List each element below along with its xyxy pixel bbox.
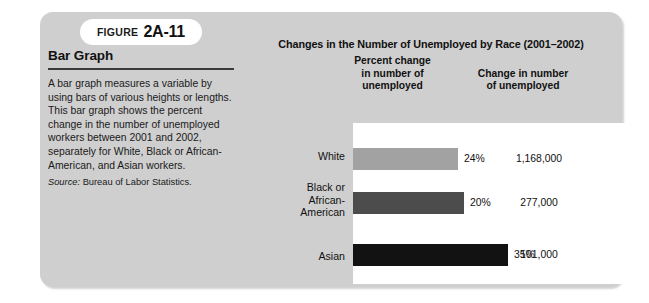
column-header-percent-line-2: in number of	[335, 68, 450, 81]
bar-white	[353, 148, 458, 170]
column-header-number-line-2: of unemployed	[453, 80, 593, 93]
category-label-black-line-2: African-	[253, 194, 345, 207]
category-label-black-line-3: American	[253, 206, 345, 219]
category-label-white: White	[253, 150, 345, 163]
bar-black-or-african-american	[353, 192, 464, 214]
count-label-black-or-african-american: 277,000	[485, 192, 593, 214]
column-header-percent-change: Percent change in number of unemployed	[335, 55, 450, 93]
count-label-white: 1,168,000	[485, 148, 593, 170]
figure-title: Bar Graph	[48, 48, 240, 63]
figure-badge: Figure 2A-11	[80, 19, 202, 45]
category-label-black-line-1: Black or	[253, 181, 345, 194]
category-label-asian: Asian	[253, 250, 345, 263]
category-label-black-or-african-american: Black or African- American	[253, 181, 345, 219]
figure-source: Source: Bureau of Labor Statistics.	[48, 176, 240, 188]
column-header-percent-line-1: Percent change	[335, 55, 450, 68]
column-header-percent-line-3: unemployed	[335, 80, 450, 93]
title-divider	[48, 68, 234, 70]
column-header-number-line-1: Change in number	[453, 68, 593, 81]
category-label-asian-line-1: Asian	[253, 250, 345, 263]
source-label: Source:	[48, 177, 80, 187]
figure-description: A bar graph measures a variable by using…	[48, 77, 236, 172]
description-column: Bar Graph A bar graph measures a variabl…	[48, 48, 240, 188]
chart-area: Changes in the Number of Unemployed by R…	[245, 38, 617, 284]
figure-root: Figure 2A-11 Bar Graph A bar graph measu…	[0, 0, 649, 303]
figure-panel: Figure 2A-11 Bar Graph A bar graph measu…	[40, 12, 622, 287]
source-text: Bureau of Labor Statistics.	[83, 177, 192, 187]
chart-title: Changes in the Number of Unemployed by R…	[245, 38, 617, 50]
chart-column-headers: Percent change in number of unemployed C…	[245, 55, 617, 101]
figure-badge-number: 2A-11	[143, 23, 185, 41]
figure-badge-word: Figure	[97, 26, 138, 38]
count-label-asian: 101,000	[485, 244, 593, 266]
category-label-white-line-1: White	[253, 150, 345, 163]
column-header-change-in-number: Change in number of unemployed	[453, 68, 593, 93]
bar-value-label-white: 24%	[464, 148, 485, 170]
